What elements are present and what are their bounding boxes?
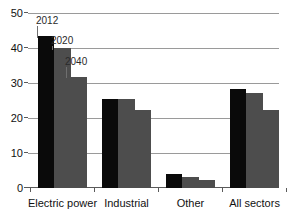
tick-mark bbox=[24, 152, 28, 153]
annotation-2040-leader-line bbox=[66, 67, 67, 78]
bar-2012-industrial[interactable] bbox=[102, 99, 118, 188]
category-label-other: Other bbox=[177, 198, 205, 209]
category-label-industrial: Industrial bbox=[104, 198, 149, 209]
bar-2040-all-sectors[interactable] bbox=[263, 110, 279, 188]
bar-2012-all-sectors[interactable] bbox=[230, 89, 246, 188]
category-label-all-sectors: All sectors bbox=[229, 198, 280, 209]
y-tick-label: 30 bbox=[11, 78, 23, 89]
bar-2040-electric-power[interactable] bbox=[71, 77, 87, 188]
annotation-2012-leader-line bbox=[37, 26, 38, 38]
annotation-2020: 2020 bbox=[51, 36, 73, 46]
bar-2020-all-sectors[interactable] bbox=[246, 93, 262, 188]
bar-2040-other[interactable] bbox=[199, 180, 215, 188]
y-tick-label: 0 bbox=[17, 183, 23, 194]
bar-2020-industrial[interactable] bbox=[118, 99, 134, 188]
bar-2012-other[interactable] bbox=[166, 174, 182, 188]
y-tick-label: 50 bbox=[11, 8, 23, 19]
tick-mark bbox=[24, 117, 28, 118]
x-tick-mark bbox=[30, 188, 31, 192]
bar-group-bars bbox=[230, 13, 279, 188]
category-label-electric-power: Electric power bbox=[28, 198, 97, 209]
annotation-2040: 2040 bbox=[65, 57, 87, 67]
x-tick-mark bbox=[158, 188, 159, 192]
bar-group-bars bbox=[102, 13, 151, 188]
bar-2012-electric-power[interactable] bbox=[38, 36, 54, 188]
tick-mark bbox=[24, 47, 28, 48]
bar-2020-other[interactable] bbox=[182, 177, 198, 188]
bar-chart: 0 10 20 30 40 50 bbox=[0, 0, 287, 212]
x-tick-mark bbox=[286, 188, 287, 192]
y-tick-label: 20 bbox=[11, 113, 23, 124]
bar-group-all-sectors: All sectors bbox=[230, 13, 279, 188]
bar-2020-electric-power[interactable] bbox=[54, 48, 70, 188]
bar-2040-industrial[interactable] bbox=[135, 110, 151, 188]
x-tick-mark bbox=[94, 188, 95, 192]
x-tick-mark bbox=[222, 188, 223, 192]
tick-mark bbox=[24, 12, 28, 13]
annotation-2012: 2012 bbox=[36, 16, 58, 26]
bar-group-bars bbox=[166, 13, 215, 188]
y-tick-label: 10 bbox=[11, 148, 23, 159]
annotation-2020-leader-line bbox=[52, 46, 53, 50]
bar-group-industrial: Industrial bbox=[102, 13, 151, 188]
bar-group-other: Other bbox=[166, 13, 215, 188]
tick-mark bbox=[24, 82, 28, 83]
y-tick-label: 40 bbox=[11, 43, 23, 54]
